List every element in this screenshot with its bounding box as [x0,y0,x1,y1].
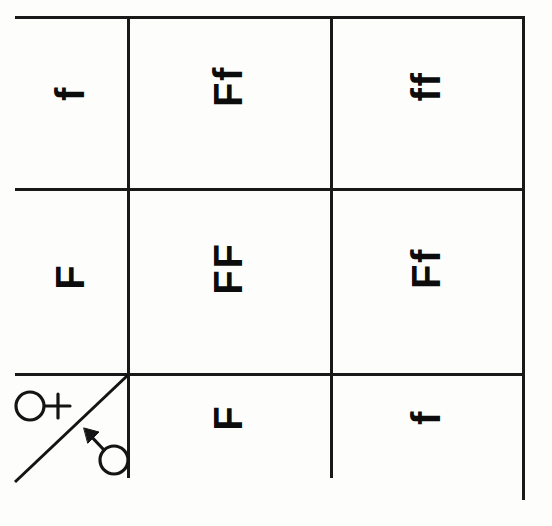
punnett-cell-r1c2: ff [405,12,448,162]
punnett-square-figure: f F F f Ff ff FF Ff [0,0,552,526]
grid-line-middle-1 [15,188,525,191]
female-symbol-icon [12,386,74,426]
punnett-cell-r2c2: Ff [405,194,448,344]
row-header-F: F [49,217,92,337]
male-symbol-icon [80,424,138,480]
grid-line-vertical-1 [127,16,130,478]
grid-line-right [522,16,525,500]
column-header-F: F [207,358,250,478]
punnett-cell-r1c1: Ff [207,12,250,162]
grid-line-vertical-2 [330,16,333,478]
column-header-f: f [405,358,448,478]
row-header-f: f [49,34,92,154]
punnett-cell-r2c1: FF [207,194,250,344]
